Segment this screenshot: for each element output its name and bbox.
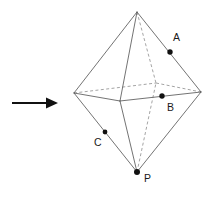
octahedron-diagram: A B C P: [0, 0, 215, 198]
point-dot-b: [159, 93, 164, 98]
edge-top-to-back: [137, 12, 156, 83]
right-arrow-icon: [12, 98, 58, 109]
point-marker-a: A: [167, 31, 180, 55]
point-marker-b: B: [159, 93, 174, 113]
point-label-p: P: [144, 172, 151, 184]
figure-canvas: A B C P: [0, 0, 215, 198]
edge-bottom-to-back: [137, 83, 156, 172]
point-dot-a: [167, 49, 172, 54]
point-marker-c: C: [94, 130, 107, 148]
point-label-b: B: [167, 101, 174, 113]
edge-top-to-front: [120, 12, 137, 101]
arrow-group: [12, 98, 58, 109]
point-markers-group: A B C P: [94, 31, 180, 184]
point-marker-p: P: [134, 169, 151, 184]
edge-left-to-front: [74, 93, 120, 101]
hidden-edges-group: [74, 12, 201, 172]
edge-back-to-right: [156, 83, 201, 92]
point-dot-p: [134, 169, 140, 175]
point-dot-c: [103, 130, 108, 135]
visible-edges-group: [74, 12, 201, 172]
edge-left-to-back: [74, 83, 156, 93]
edge-top-to-left: [74, 12, 137, 93]
point-label-c: C: [94, 136, 102, 148]
point-label-a: A: [173, 31, 180, 43]
